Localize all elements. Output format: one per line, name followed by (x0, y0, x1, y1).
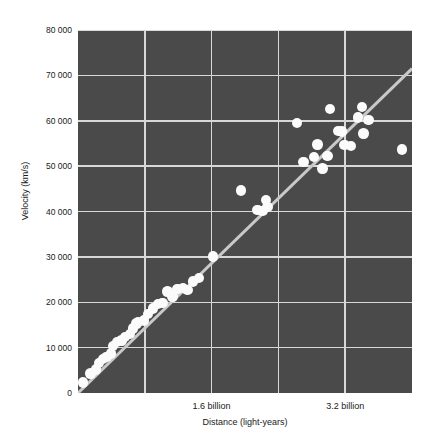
data-point (346, 141, 356, 151)
plot-area (78, 30, 412, 393)
data-point (312, 139, 322, 149)
data-point (157, 298, 167, 308)
data-point (78, 377, 88, 387)
data-point (358, 128, 368, 138)
x-axis-title: Distance (light-years) (78, 417, 412, 427)
data-point (208, 251, 218, 261)
data-point (236, 185, 246, 195)
data-point (397, 144, 407, 154)
y-axis-tick-label: 0 (67, 389, 72, 398)
y-axis-tick-label: 60 000 (46, 117, 72, 126)
y-axis-tick-label: 10 000 (46, 344, 72, 353)
y-axis-tick-label: 40 000 (46, 208, 72, 217)
hubble-diagram-figure: 010 00020 00030 00040 00050 00060 00070 … (0, 0, 429, 434)
y-axis-tick-label: 70 000 (46, 71, 72, 80)
y-axis-tick-label: 20 000 (46, 298, 72, 307)
data-point (317, 163, 327, 173)
x-axis-tick-label: 1.6 billion (162, 402, 262, 411)
data-point (353, 112, 363, 122)
data-point (292, 118, 302, 128)
y-axis-tick-label: 30 000 (46, 253, 72, 262)
y-axis-tick-label: 50 000 (46, 162, 72, 171)
data-point (298, 157, 308, 167)
y-axis-title: Velocity (km/s) (20, 131, 30, 251)
data-point (363, 115, 373, 125)
data-point (322, 151, 332, 161)
data-point (337, 126, 347, 136)
data-point (262, 202, 272, 212)
y-axis-tick-labels: 010 00020 00030 00040 00050 00060 00070 … (0, 0, 72, 434)
y-axis-tick-label: 80 000 (46, 26, 72, 35)
x-axis-tick-label: 3.2 billion (295, 402, 395, 411)
